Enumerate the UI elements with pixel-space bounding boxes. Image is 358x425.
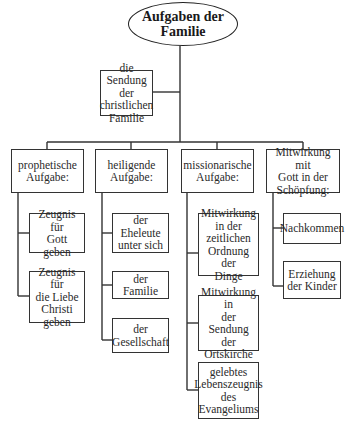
- node-zeitliche-ordnung: Mitwirkung in der zeitlichen Ordnung der…: [198, 213, 259, 276]
- node-label: Zeugnis für die Liebe Christi geben: [32, 266, 82, 329]
- node-familie: der Familie: [112, 271, 169, 299]
- node-nachkommen: Nachkommen: [283, 213, 341, 244]
- node-zeugnis-liebe-christi: Zeugnis für die Liebe Christi geben: [29, 271, 85, 323]
- node-eheleute: der Eheleute unter sich: [112, 213, 169, 253]
- node-label: heiligende Aufgabe:: [108, 159, 156, 184]
- node-label: gelebtes Lebenszeugnis des Evangeliums: [194, 366, 262, 416]
- node-label: Zeugnis für Gott geben: [32, 208, 82, 258]
- node-label: Erziehung der Kinder: [287, 268, 337, 293]
- node-label: die Sendung der christlichen Familie: [100, 62, 154, 125]
- node-gesellschaft: der Gesellschaft: [112, 318, 169, 353]
- node-label: Mitwirkung in der Sendung der Ortskirche: [201, 286, 256, 361]
- node-lebenszeugnis: gelebtes Lebenszeugnis des Evangeliums: [198, 362, 259, 419]
- node-sendung-der-familie: die Sendung der christlichen Familie: [100, 70, 153, 116]
- node-heiligende-aufgabe: heiligende Aufgabe:: [95, 149, 168, 193]
- node-ortskirche: Mitwirkung in der Sendung der Ortskirche: [198, 295, 259, 351]
- node-label: der Familie: [115, 273, 166, 298]
- root-node-aufgaben-der-familie: Aufgaben der Familie: [128, 2, 238, 46]
- node-erziehung-kinder: Erziehung der Kinder: [283, 261, 341, 299]
- node-label: der Eheleute unter sich: [115, 214, 166, 252]
- node-mitwirkung-schoepfung: Mitwirkung mit Gott in der Schöpfung:: [266, 149, 340, 193]
- node-label: der Gesellschaft: [112, 323, 169, 348]
- node-prophetische-aufgabe: prophetische Aufgabe:: [11, 149, 84, 193]
- node-label: Mitwirkung in der zeitlichen Ordnung der…: [201, 207, 256, 282]
- root-label: Aufgaben der Familie: [142, 9, 224, 39]
- node-missionarische-aufgabe: missionarische Aufgabe:: [181, 149, 254, 193]
- node-label: missionarische Aufgabe:: [183, 159, 251, 184]
- node-label: Mitwirkung mit Gott in der Schöpfung:: [269, 146, 337, 196]
- node-label: prophetische Aufgabe:: [18, 159, 77, 184]
- node-zeugnis-gott: Zeugnis für Gott geben: [29, 213, 85, 253]
- node-label: Nachkommen: [280, 222, 345, 235]
